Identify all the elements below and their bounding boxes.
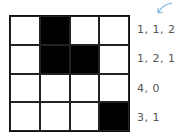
grid-cell-r1-c4	[99, 16, 129, 45]
grid-cell-r2-c3	[70, 45, 100, 74]
grid-cell-r4-c2	[40, 102, 70, 131]
grid-cell-r2-c1	[10, 45, 40, 74]
grid-cell-r3-c4	[99, 74, 129, 103]
grid-cell-r1-c1	[10, 16, 40, 45]
grid-cell-r3-c2	[40, 74, 70, 103]
grid-cell-r2-c4	[99, 45, 129, 74]
row-label-4: 3, 1	[137, 103, 176, 132]
pixel-grid	[9, 15, 130, 132]
grid-cell-r4-c4	[99, 102, 129, 131]
grid-cell-r1-c2	[40, 16, 70, 45]
grid-cell-r1-c3	[70, 16, 100, 45]
row-labels: 1, 1, 2 1, 2, 1 4, 0 3, 1	[137, 15, 176, 132]
grid-cell-r3-c1	[10, 74, 40, 103]
grid-cell-r3-c3	[70, 74, 100, 103]
row-label-1: 1, 1, 2	[137, 15, 176, 44]
grid-cell-r2-c2	[40, 45, 70, 74]
row-label-2: 1, 2, 1	[137, 44, 176, 73]
grid-cell-r4-c1	[10, 102, 40, 131]
arrow-down-left-icon	[155, 2, 173, 16]
row-label-3: 4, 0	[137, 74, 176, 103]
grid-cell-r4-c3	[70, 102, 100, 131]
